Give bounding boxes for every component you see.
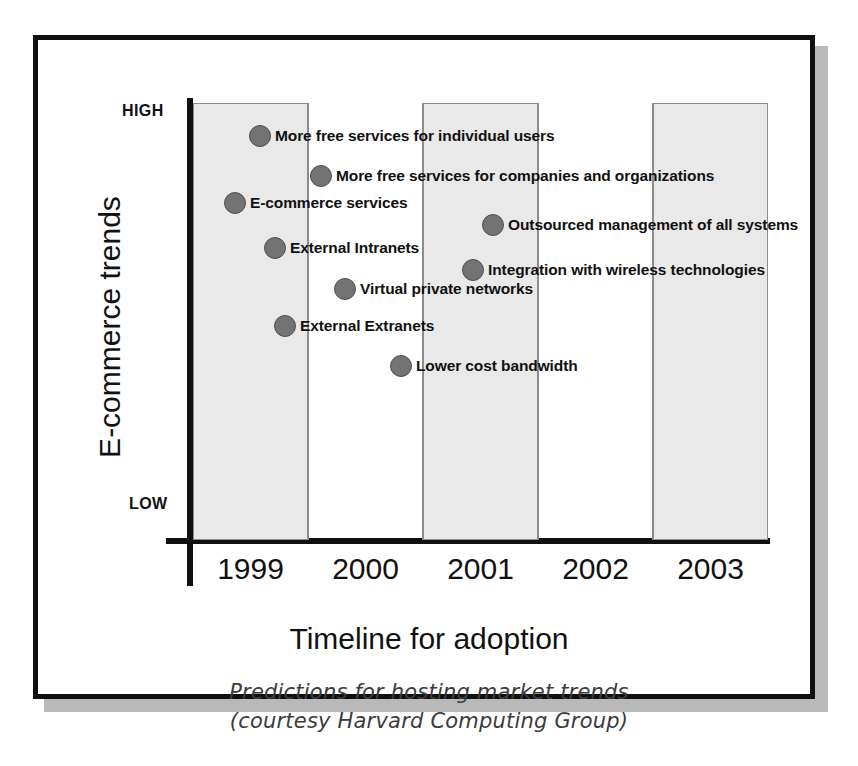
data-point-label: Integration with wireless technologies	[488, 261, 765, 279]
data-point-marker	[390, 355, 412, 377]
data-point-marker	[249, 125, 271, 147]
data-point-label: More free services for companies and org…	[336, 167, 714, 185]
x-axis-tick-1999: 1999	[193, 552, 308, 586]
data-point-label: Outsourced management of all systems	[508, 216, 798, 234]
data-point-label: External Intranets	[290, 239, 419, 257]
data-point-label: External Extranets	[300, 317, 434, 335]
y-axis-title: E-commerce trends	[93, 177, 127, 477]
caption-line-2: (courtesy Harvard Computing Group)	[38, 707, 820, 736]
data-point-marker	[224, 192, 246, 214]
y-axis-high-label: HIGH	[122, 102, 164, 120]
figure-frame: HIGH LOW E-commerce trends More free ser…	[33, 35, 815, 699]
x-axis-tick-2002: 2002	[538, 552, 653, 586]
data-point-marker	[274, 315, 296, 337]
x-axis-tick-2003: 2003	[653, 552, 768, 586]
x-axis-tick-2000: 2000	[308, 552, 423, 586]
data-point-label: E-commerce services	[250, 194, 408, 212]
data-point-label: Virtual private networks	[360, 280, 533, 298]
data-point-marker	[264, 237, 286, 259]
data-point-marker	[462, 259, 484, 281]
data-point-marker	[310, 165, 332, 187]
x-axis-tick-2001: 2001	[423, 552, 538, 586]
data-point-label: More free services for individual users	[275, 127, 555, 145]
data-point-label: Lower cost bandwidth	[416, 357, 578, 375]
data-point-marker	[482, 214, 504, 236]
figure-caption: Predictions for hosting market trends (c…	[38, 678, 820, 736]
y-axis-low-label: LOW	[129, 495, 168, 513]
plot-area: More free services for individual usersM…	[193, 103, 768, 540]
caption-line-1: Predictions for hosting market trends	[38, 678, 820, 707]
x-axis-title: Timeline for adoption	[38, 622, 820, 656]
data-point-marker	[334, 278, 356, 300]
